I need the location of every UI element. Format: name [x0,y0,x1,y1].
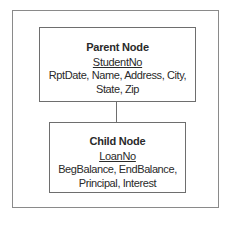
parent-child-connector [116,101,117,122]
child-node-attributes-line1: BegBalance, EndBalance, [50,162,185,176]
child-node: Child Node LoanNo BegBalance, EndBalance… [49,122,186,193]
parent-node-attributes-line2: State, Zip [40,82,195,96]
child-node-key: LoanNo [50,150,185,162]
parent-node-key: StudentNo [40,56,195,68]
parent-node-attributes-line1: RptDate, Name, Address, City, [40,68,195,82]
child-node-title: Child Node [50,135,185,147]
parent-node: Parent Node StudentNo RptDate, Name, Add… [39,27,196,102]
parent-node-title: Parent Node [40,41,195,53]
child-node-attributes-line2: Principal, Interest [50,176,185,190]
